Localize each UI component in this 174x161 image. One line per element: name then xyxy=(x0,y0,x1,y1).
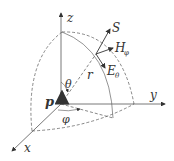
y-axis-label: y xyxy=(149,88,157,102)
phi-arc xyxy=(58,109,80,111)
x-axis xyxy=(12,104,61,151)
x-axis-label: x xyxy=(24,141,31,155)
e-field-subscript: θ xyxy=(115,72,120,80)
dipole-diagram: z y x p S H φ E θ r θ φ xyxy=(0,0,174,161)
h-field-subscript: φ xyxy=(124,49,129,57)
phi-label: φ xyxy=(62,113,70,126)
poynting-label: S xyxy=(112,21,120,35)
theta-label: θ xyxy=(65,78,72,91)
dashed-arc-zx xyxy=(31,32,62,131)
z-axis-label: z xyxy=(66,11,74,25)
radius-label: r xyxy=(87,68,94,82)
dipole-label: p xyxy=(45,94,54,109)
